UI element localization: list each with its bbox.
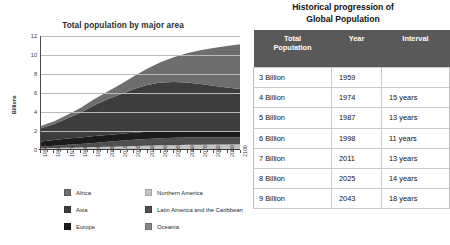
grid-line (41, 93, 240, 94)
legend-item[interactable]: Latin America and the Caribbean (145, 201, 243, 218)
table-panel: Historical progression of Global Populat… (248, 0, 438, 245)
x-axis-labels: 1950196019701980199020002010202020302040… (40, 157, 240, 187)
table-body: 3 Billion19594 Billion197415 years5 Bill… (254, 68, 450, 209)
cell-year: 2025 (332, 168, 382, 188)
y-axis-label: Billions (11, 95, 17, 114)
legend-label: Africa (76, 190, 91, 196)
x-tick-label: 2030 (149, 145, 155, 157)
y-tick-label: 4 (21, 109, 37, 115)
x-tick-mark (120, 150, 121, 153)
x-tick-mark (240, 150, 241, 153)
legend-swatch-icon (145, 189, 152, 196)
chart-title: Total population by major area (0, 21, 246, 30)
legend-column-1: AfricaAsiaEurope (64, 184, 95, 235)
cell-total-population: 3 Billion (254, 68, 332, 88)
cell-year: 2043 (332, 189, 382, 209)
legend-swatch-icon (64, 223, 71, 230)
chart-legend: AfricaAsiaEurope Northern AmericaLatin A… (0, 184, 246, 242)
x-tick-label: 2020 (135, 145, 141, 157)
legend-swatch-icon (64, 206, 71, 213)
x-tick-mark (40, 150, 41, 153)
cell-total-population: 7 Billion (254, 148, 332, 168)
x-tick-mark (107, 150, 108, 153)
population-milestones-table: Total Population Year Interval 3 Billion… (253, 30, 450, 209)
legend-item[interactable]: Europe (64, 218, 95, 235)
cell-interval: 18 years (382, 189, 450, 209)
y-tick-label: 12 (21, 33, 37, 39)
x-tick-label: 2040 (162, 145, 168, 157)
cell-year: 1998 (332, 128, 382, 148)
cell-interval (382, 68, 450, 88)
legend-item[interactable]: Asia (64, 201, 95, 218)
cell-interval: 13 years (382, 108, 450, 128)
grid-line (41, 112, 240, 113)
cell-year: 1959 (332, 68, 382, 88)
table-row: 9 Billion204318 years (254, 189, 450, 209)
x-tick-mark (227, 150, 228, 153)
cell-total-population: 8 Billion (254, 168, 332, 188)
cell-interval: 15 years (382, 88, 450, 108)
cell-total-population: 6 Billion (254, 128, 332, 148)
table-header-row: Total Population Year Interval (254, 30, 450, 68)
legend-label: Northern America (157, 190, 203, 196)
grid-line (41, 74, 240, 75)
x-tick-label: 1990 (95, 145, 101, 157)
x-tick-label: 2070 (202, 145, 208, 157)
x-tick-label: 1970 (69, 145, 75, 157)
table-header: Total Population Year Interval (254, 30, 450, 68)
legend-label: Latin America and the Caribbean (157, 207, 243, 213)
plot-area-wrapper: Billions 024681012 195019601970198019902… (0, 36, 246, 158)
column-header-year: Year (332, 30, 382, 68)
x-tick-label: 2000 (109, 145, 115, 157)
cell-year: 1987 (332, 108, 382, 128)
cell-total-population: 5 Billion (254, 108, 332, 128)
grid-line (41, 131, 240, 132)
plot-area (40, 36, 240, 150)
cell-total-population: 4 Billion (254, 88, 332, 108)
cell-year: 1974 (332, 88, 382, 108)
y-tick-label: 8 (21, 71, 37, 77)
legend-swatch-icon (145, 206, 152, 213)
x-tick-label: 1980 (82, 145, 88, 157)
table-title: Historical progression of Global Populat… (248, 2, 438, 25)
y-axis-ticks: 024681012 (19, 36, 37, 150)
column-header-total-population: Total Population (254, 30, 332, 68)
table-row: 3 Billion1959 (254, 68, 450, 88)
legend-label: Oceania (157, 224, 179, 230)
cell-year: 2011 (332, 148, 382, 168)
y-tick-label: 6 (21, 90, 37, 96)
x-tick-mark (200, 150, 201, 153)
legend-item[interactable]: Northern America (145, 184, 243, 201)
column-header-interval: Interval (382, 30, 450, 68)
x-tick-label: 2080 (215, 145, 221, 157)
x-tick-mark (147, 150, 148, 153)
y-tick-label: 10 (21, 52, 37, 58)
column-header-total-population-line2: Population (256, 43, 330, 52)
grid-line (41, 55, 240, 56)
x-tick-label: 1960 (55, 145, 61, 157)
cell-interval: 14 years (382, 168, 450, 188)
column-header-total-population-line1: Total (256, 34, 330, 43)
grid-line (41, 36, 240, 37)
x-tick-mark (187, 150, 188, 153)
y-tick-label: 0 (21, 147, 37, 153)
legend-item[interactable]: Oceania (145, 218, 243, 235)
x-tick-label: 2060 (189, 145, 195, 157)
cell-interval: 11 years (382, 128, 450, 148)
legend-item[interactable]: Africa (64, 184, 95, 201)
table-row: 5 Billion198713 years (254, 108, 450, 128)
legend-swatch-icon (145, 223, 152, 230)
x-tick-label: 2090 (229, 145, 235, 157)
table-title-line-1: Historical progression of (248, 2, 438, 14)
table-row: 4 Billion197415 years (254, 88, 450, 108)
chart-panel: Total population by major area Billions … (0, 0, 246, 245)
cell-total-population: 9 Billion (254, 189, 332, 209)
table-row: 6 Billion199811 years (254, 128, 450, 148)
table-title-line-2: Global Population (248, 14, 438, 26)
table-row: 8 Billion202514 years (254, 168, 450, 188)
legend-swatch-icon (64, 189, 71, 196)
legend-label: Asia (76, 207, 87, 213)
cell-interval: 13 years (382, 148, 450, 168)
y-tick-label: 2 (21, 128, 37, 134)
